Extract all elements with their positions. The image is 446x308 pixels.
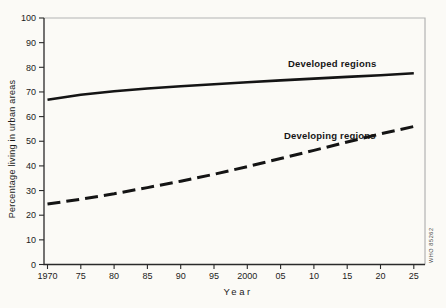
x-tick-label: 75 (76, 271, 86, 281)
plot-area: 0102030405060708090100197075808590952000… (0, 0, 446, 308)
x-tick-label: 80 (109, 271, 119, 281)
y-tick-label: 100 (21, 13, 36, 23)
y-tick-label: 90 (26, 38, 36, 48)
who-figure-number: WHO 85262 (428, 227, 434, 263)
x-tick-label: 15 (342, 271, 352, 281)
series-label-developing-regions: Developing regions (284, 130, 366, 141)
x-tick-label: 05 (276, 271, 286, 281)
plot-frame (44, 18, 425, 265)
y-tick-label: 10 (26, 235, 36, 245)
x-axis-title: Year (200, 286, 276, 297)
x-tick-label: 90 (176, 271, 186, 281)
x-tick-label: 25 (409, 271, 419, 281)
y-tick-label: 60 (26, 112, 36, 122)
series-line-developed-regions (48, 73, 414, 100)
x-tick-label: 1970 (37, 271, 57, 281)
y-axis-title: Percentage living in urban areas (7, 69, 19, 229)
urbanization-line-chart: 0102030405060708090100197075808590952000… (0, 0, 446, 308)
x-tick-label: 95 (209, 271, 219, 281)
x-tick-label: 20 (375, 271, 385, 281)
y-tick-label: 20 (26, 210, 36, 220)
y-tick-label: 50 (26, 136, 36, 146)
series-label-developed-regions: Developed regions (288, 58, 368, 69)
x-tick-label: 2000 (237, 271, 257, 281)
y-tick-label: 0 (31, 260, 36, 270)
y-tick-label: 70 (26, 87, 36, 97)
y-tick-label: 40 (26, 161, 36, 171)
axes (44, 18, 425, 265)
x-tick-label: 85 (142, 271, 152, 281)
y-tick-label: 30 (26, 186, 36, 196)
x-tick-label: 10 (309, 271, 319, 281)
y-tick-label: 80 (26, 63, 36, 73)
